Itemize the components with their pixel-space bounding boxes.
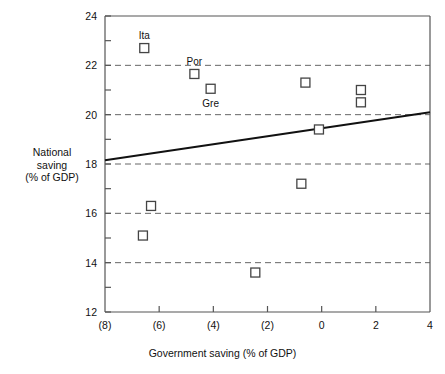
- data-point-marker-0: [140, 44, 149, 53]
- data-point-label-gre: Gre: [202, 98, 219, 109]
- data-point-marker-9: [138, 231, 147, 240]
- data-point-label-por: Por: [187, 56, 203, 67]
- y-tick-label-22: 22: [85, 59, 97, 71]
- y-tick-label-16: 16: [85, 207, 97, 219]
- y-tick-label-24: 24: [85, 10, 97, 22]
- x-tick-label--6: (6): [153, 319, 166, 331]
- x-tick-label-2: 2: [373, 319, 379, 331]
- x-tick-label--4: (4): [207, 319, 220, 331]
- y-tick-label-12: 12: [85, 306, 97, 318]
- y-tick-label-18: 18: [85, 158, 97, 170]
- scatter-chart: National saving (% of GDP) Government sa…: [0, 0, 445, 374]
- x-tick-label--2: (2): [261, 319, 274, 331]
- data-point-marker-1: [190, 69, 199, 78]
- data-point-marker-5: [356, 98, 365, 107]
- data-point-label-ita: Ita: [139, 30, 151, 41]
- y-tick-label-20: 20: [85, 109, 97, 121]
- data-point-marker-8: [147, 201, 156, 210]
- data-point-marker-7: [297, 179, 306, 188]
- data-points: ItaPorGre: [138, 30, 365, 277]
- data-point-marker-6: [314, 125, 323, 134]
- plot-area: 12141618202224(8)(6)(4)(2)024 ItaPorGre: [0, 0, 445, 374]
- data-point-marker-3: [301, 78, 310, 87]
- x-tick-label-0: 0: [319, 319, 325, 331]
- y-tick-label-14: 14: [85, 257, 97, 269]
- data-point-marker-4: [356, 86, 365, 95]
- x-tick-label-4: 4: [427, 319, 433, 331]
- data-point-marker-2: [206, 84, 215, 93]
- trendline-path: [105, 112, 430, 160]
- data-point-marker-10: [251, 268, 260, 277]
- axis-tick-labels: 12141618202224(8)(6)(4)(2)024: [85, 10, 433, 331]
- x-tick-label--8: (8): [99, 319, 112, 331]
- trendline: [105, 112, 430, 160]
- gridlines: [105, 65, 430, 262]
